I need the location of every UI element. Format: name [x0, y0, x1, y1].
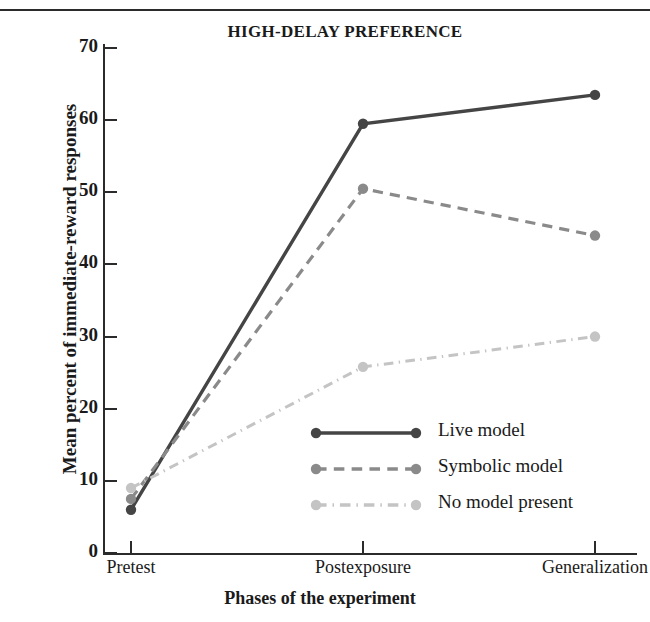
data-point-marker — [126, 494, 136, 504]
chart-legend: Live modelSymbolic modelNo model present — [310, 415, 630, 523]
legend-item[interactable]: Live model — [310, 415, 630, 451]
data-point-marker — [126, 483, 136, 493]
chart-figure: HIGH-DELAY PREFERENCE Mean percent of im… — [0, 0, 650, 622]
data-point-marker — [126, 505, 136, 515]
data-point-marker — [358, 362, 368, 372]
legend-item[interactable]: Symbolic model — [310, 451, 630, 487]
data-point-marker — [358, 119, 368, 129]
legend-item[interactable]: No model present — [310, 487, 630, 523]
data-point-marker — [590, 230, 600, 240]
plot-area — [0, 0, 650, 622]
data-point-marker — [590, 331, 600, 341]
legend-line-swatch — [310, 415, 422, 451]
legend-line-swatch — [310, 487, 422, 523]
data-point-marker — [358, 183, 368, 193]
legend-label: Live model — [438, 419, 525, 441]
legend-label: No model present — [438, 491, 573, 513]
legend-line-swatch — [310, 451, 422, 487]
legend-label: Symbolic model — [438, 455, 563, 477]
data-point-marker — [590, 90, 600, 100]
